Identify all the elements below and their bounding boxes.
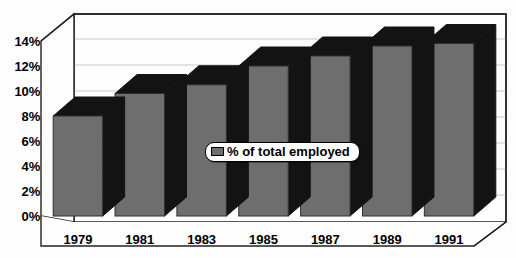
x-axis-tick-label: 1987 [311,232,340,247]
legend-swatch-icon [211,147,224,156]
x-axis-tick-label: 1989 [373,232,402,247]
legend-label: % of total employed [227,144,350,159]
x-axis-tick-label: 1981 [125,232,154,247]
x-axis-tick-label: 1983 [187,232,216,247]
chart-legend: % of total employed [205,142,360,162]
x-axis: 1991198919871985198319811979 [0,0,516,258]
x-axis-tick-label: 1985 [249,232,278,247]
bar-chart: 0%2%4%6%8%10%12%14% 19911989198719851983… [0,0,516,258]
x-axis-tick-label: 1991 [435,232,464,247]
x-axis-tick-label: 1979 [63,232,92,247]
